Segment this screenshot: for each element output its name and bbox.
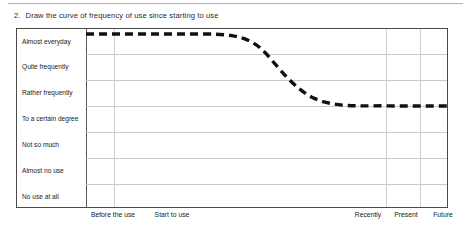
x-axis-label-start-to-use: Start to use (155, 210, 190, 219)
y-axis-label-no-use-at-all: No use at all (22, 193, 59, 201)
question-heading: 2.Draw the curve of frequency of use sin… (14, 11, 219, 21)
x-axis-label-present: Present (394, 210, 417, 219)
question-text: Draw the curve of frequency of use since… (26, 11, 219, 20)
y-axis-label-rather-frequently: Rather frequently (22, 89, 73, 97)
plot-area (86, 29, 447, 207)
y-axis-label-to-a-certain-degree: To a certain degree (22, 115, 78, 123)
x-axis-label-recently: Recently (355, 210, 381, 219)
y-axis-label-almost-everyday: Almost everyday (22, 38, 71, 46)
page-top-rule (8, 3, 463, 4)
question-number: 2. (14, 11, 21, 20)
y-axis-label-almost-no-use: Almost no use (22, 167, 64, 175)
x-axis-label-before-the-use: Before the use (91, 210, 135, 219)
x-axis-label-row: Before the use Start to use Recently Pre… (0, 210, 470, 224)
y-axis-label-column: Almost everyday Quite frequently Rather … (17, 29, 86, 207)
frequency-curve[interactable] (86, 29, 447, 207)
y-axis-label-quite-frequently: Quite frequently (22, 63, 69, 71)
y-axis-label-not-so-much: Not so much (22, 141, 59, 149)
x-axis-label-future: Future (433, 210, 453, 219)
frequency-of-use-chart[interactable]: Almost everyday Quite frequently Rather … (16, 28, 448, 208)
